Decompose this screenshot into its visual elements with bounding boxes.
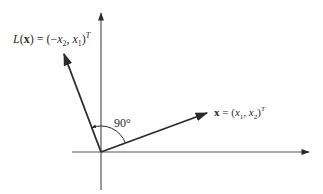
label-x-eq: = (	[220, 106, 235, 118]
label-angle: 90°	[114, 117, 131, 129]
label-Lx-func: L	[13, 32, 20, 46]
vector-Lx	[64, 54, 101, 152]
label-x: x = (x1, x2)T	[214, 107, 265, 118]
label-Lx: L(x) = (−x2, x1)T	[13, 33, 90, 45]
label-x-sup: T	[261, 105, 265, 113]
label-Lx-mid: ) = (−	[30, 32, 58, 46]
label-Lx-sup: T	[86, 31, 90, 40]
angle-90-label: 90°	[114, 116, 131, 130]
diagram-canvas: L(x) = (−x2, x1)T x = (x1, x2)T 90°	[0, 0, 323, 194]
diagram-svg	[0, 0, 323, 194]
